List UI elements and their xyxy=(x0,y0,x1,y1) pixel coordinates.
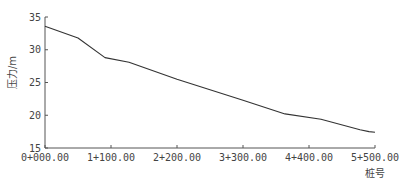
x-tick-label: 2+200.00 xyxy=(153,152,201,163)
x-axis: 0+000.001+100.002+200.003+300.004+400.00… xyxy=(21,145,399,163)
y-tick-label: 20 xyxy=(29,110,41,121)
y-axis: 1520253035 xyxy=(29,12,48,154)
series-layer xyxy=(45,26,375,132)
y-tick-label: 35 xyxy=(29,12,41,23)
x-tick-label: 3+300.00 xyxy=(219,152,267,163)
x-tick-label: 1+100.00 xyxy=(87,152,135,163)
x-tick-label: 4+400.00 xyxy=(285,152,333,163)
y-tick-label: 25 xyxy=(29,77,41,88)
x-tick-label: 5+500.00 xyxy=(351,152,399,163)
x-tick-label: 0+000.00 xyxy=(21,152,69,163)
pressure-line-chart: 1520253035 0+000.001+100.002+200.003+300… xyxy=(0,0,415,185)
pressure-line xyxy=(45,26,375,132)
y-tick-label: 30 xyxy=(29,44,41,55)
y-axis-title: 压力/m xyxy=(6,56,18,89)
x-axis-title: 桩号 xyxy=(365,167,385,179)
